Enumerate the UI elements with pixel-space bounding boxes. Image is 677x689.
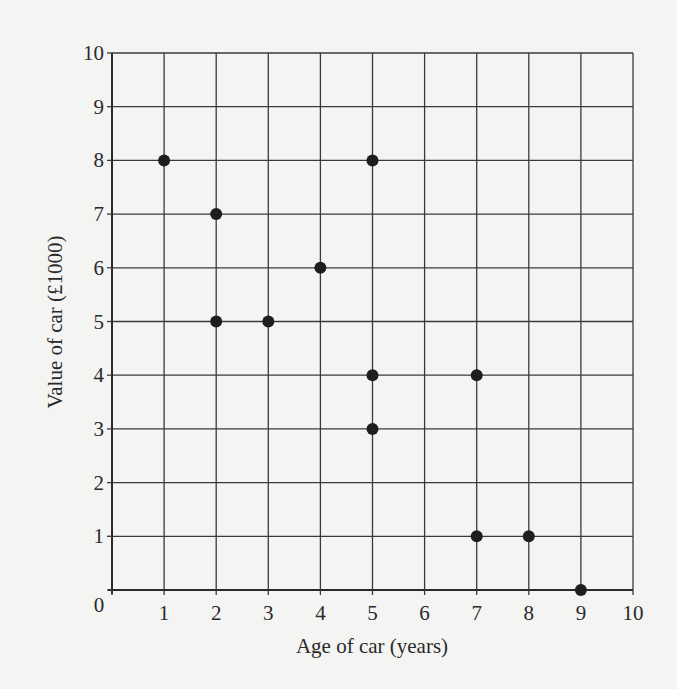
y-tick-label: 2 [94,471,105,495]
data-point [367,423,379,435]
data-point [367,369,379,381]
data-point [210,316,222,328]
y-tick-label: 3 [94,417,105,441]
data-point [471,369,483,381]
data-point [262,316,274,328]
data-point [314,262,326,274]
data-point [523,530,535,542]
data-point [471,530,483,542]
y-tick-label: 5 [94,310,105,334]
chart-canvas: 012345678910 12345678910 Age of car (yea… [0,0,677,689]
x-axis-ticks: 012345678910 [94,593,644,625]
x-tick-label: 6 [419,601,430,625]
x-tick-label: 1 [159,601,170,625]
data-point [367,154,379,166]
y-axis-title: Value of car (£1000) [43,235,67,408]
y-tick-label: 10 [83,41,104,65]
scatter-chart: 012345678910 12345678910 Age of car (yea… [0,0,677,689]
x-tick-label: 5 [367,601,378,625]
x-tick-label: 0 [94,593,105,617]
y-axis-ticks: 12345678910 [83,41,105,548]
y-tick-label: 9 [94,95,105,119]
x-tick-label: 10 [623,601,644,625]
data-point [158,154,170,166]
y-tick-label: 1 [94,524,105,548]
x-tick-label: 4 [315,601,326,625]
y-tick-label: 7 [94,202,105,226]
data-point [210,208,222,220]
x-tick-label: 3 [263,601,274,625]
x-tick-label: 7 [471,601,482,625]
x-tick-label: 8 [524,601,535,625]
data-point [575,584,587,596]
axes [107,53,633,595]
x-tick-label: 2 [211,601,222,625]
x-axis-title: Age of car (years) [296,634,448,658]
grid [112,53,633,590]
y-tick-label: 8 [94,148,105,172]
x-tick-label: 9 [576,601,587,625]
y-tick-label: 6 [94,256,105,280]
y-tick-label: 4 [94,363,105,387]
